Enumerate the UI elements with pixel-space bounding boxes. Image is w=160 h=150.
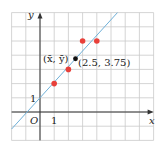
y-axis-label: y — [27, 9, 34, 20]
scatter-chart: y x O 1 1 (x̄, ȳ) (2.5, 3.75) — [0, 0, 160, 150]
y-tick-1-label: 1 — [30, 93, 36, 104]
data-point — [80, 38, 86, 44]
x-tick-1-label: 1 — [51, 115, 57, 126]
mean-symbol-label: (x̄, ȳ) — [43, 53, 69, 64]
mean-value-label: (2.5, 3.75) — [78, 57, 130, 68]
y-axis-arrow-icon — [38, 13, 43, 19]
data-point — [66, 67, 72, 73]
data-point — [51, 81, 57, 87]
data-point — [94, 38, 100, 44]
x-axis-arrow-icon — [148, 110, 154, 115]
origin-label: O — [30, 115, 38, 126]
x-axis-label: x — [149, 115, 155, 126]
